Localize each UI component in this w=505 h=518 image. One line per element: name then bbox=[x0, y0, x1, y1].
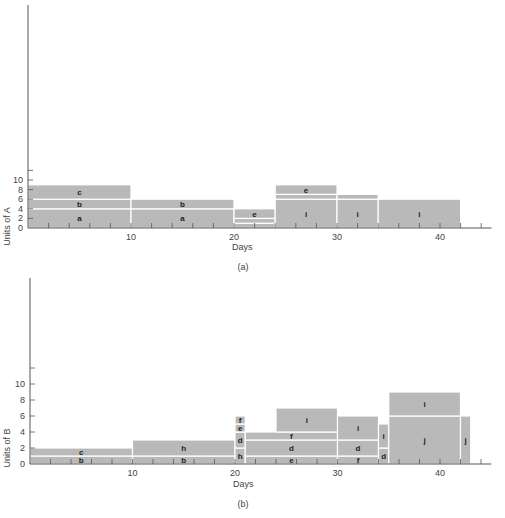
y-tick-label: 2 bbox=[20, 443, 25, 453]
y-tick-label: 4 bbox=[20, 427, 25, 437]
x-tick-label: 40 bbox=[435, 468, 445, 478]
activity-label: d bbox=[381, 452, 386, 461]
activity-block-f bbox=[337, 194, 378, 199]
activity-block-f bbox=[275, 194, 337, 199]
activity-label: i bbox=[305, 210, 307, 219]
activity-label: c bbox=[77, 188, 82, 197]
figure-caption: (b) bbox=[238, 499, 249, 509]
y-tick-label: 0 bbox=[20, 459, 25, 469]
activity-label: f bbox=[290, 432, 293, 441]
activity-label: d bbox=[356, 444, 361, 453]
activity-label: e bbox=[238, 424, 243, 433]
activity-label: i bbox=[306, 416, 308, 425]
x-axis-title: Days bbox=[233, 479, 254, 489]
chart-a: abcabeieii102030400246810DaysUnits of A(… bbox=[2, 5, 492, 272]
activity-label: b bbox=[77, 200, 82, 209]
activity-label: d bbox=[238, 436, 243, 445]
activity-block-f bbox=[234, 218, 275, 223]
y-tick-label: 2 bbox=[18, 213, 23, 223]
x-tick-label: 10 bbox=[126, 232, 136, 242]
x-axis-title: Days bbox=[232, 242, 253, 252]
y-tick-label: 10 bbox=[15, 379, 25, 389]
activity-label: h bbox=[181, 444, 186, 453]
y-tick-label: 8 bbox=[18, 185, 23, 195]
y-tick-label: 4 bbox=[18, 204, 23, 214]
x-tick-label: 30 bbox=[332, 468, 342, 478]
activity-label: j bbox=[423, 436, 426, 445]
y-tick-label: 10 bbox=[13, 175, 23, 185]
activity-label: h bbox=[238, 452, 243, 461]
y-tick-label: 0 bbox=[18, 223, 23, 233]
resource-histogram-figure: abcabeieii102030400246810DaysUnits of A(… bbox=[0, 0, 505, 518]
activity-label: a bbox=[180, 214, 185, 223]
activity-label: a bbox=[77, 214, 82, 223]
x-tick-label: 20 bbox=[229, 232, 239, 242]
x-tick-label: 10 bbox=[127, 468, 137, 478]
activity-label: e bbox=[252, 210, 257, 219]
y-axis-title: Units of A bbox=[2, 207, 12, 246]
activity-label: j bbox=[464, 436, 467, 445]
activity-label: i bbox=[424, 400, 426, 409]
activity-label: c bbox=[79, 448, 84, 457]
activity-label: b bbox=[180, 200, 185, 209]
y-tick-label: 8 bbox=[20, 395, 25, 405]
y-tick-label: 6 bbox=[18, 194, 23, 204]
activity-label: i bbox=[356, 210, 358, 219]
chart-b: bcbhhdefedfifdidijij102030400246810DaysU… bbox=[2, 278, 491, 509]
activity-label: e bbox=[304, 186, 309, 195]
x-tick-label: 20 bbox=[230, 468, 240, 478]
x-tick-label: 30 bbox=[332, 232, 342, 242]
activity-label: d bbox=[289, 444, 294, 453]
activity-label: i bbox=[383, 432, 385, 441]
activity-label: f bbox=[239, 416, 242, 425]
activity-label: i bbox=[357, 424, 359, 433]
x-tick-label: 40 bbox=[435, 232, 445, 242]
y-axis-title: Units of B bbox=[2, 428, 12, 467]
y-tick-label: 6 bbox=[20, 411, 25, 421]
activity-label: i bbox=[418, 210, 420, 219]
figure-caption: (a) bbox=[238, 262, 249, 272]
